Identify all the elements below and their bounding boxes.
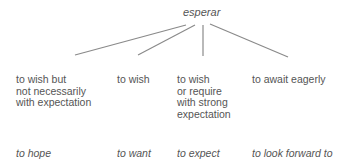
translation-2: to want — [117, 147, 151, 159]
translation-4: to look forward to — [252, 147, 333, 159]
meaning-2: to wish — [117, 74, 150, 86]
translation-1: to hope — [16, 147, 51, 159]
meaning-3-line-3: with strong — [177, 97, 231, 109]
translation-3: to expect — [177, 147, 220, 159]
connector-line-4 — [210, 24, 288, 57]
meaning-1-line-3: with expectation — [16, 97, 91, 109]
meaning-3-line-1: to wish — [177, 74, 231, 86]
meaning-1: to wish but not necessarily with expecta… — [16, 74, 91, 109]
meaning-4-line-1: to await eagerly — [252, 74, 326, 86]
meaning-2-line-1: to wish — [117, 74, 150, 86]
meaning-4: to await eagerly — [252, 74, 326, 86]
connector-line-1 — [75, 25, 186, 55]
meaning-3-line-4: expectation — [177, 109, 231, 121]
meaning-1-line-1: to wish but — [16, 74, 91, 86]
meaning-3: to wish or require with strong expectati… — [177, 74, 231, 120]
connector-line-2 — [138, 25, 195, 55]
